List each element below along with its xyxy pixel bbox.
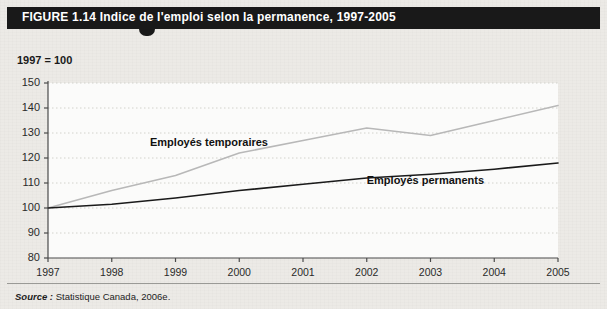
series-annotation-temporaires: Employés temporaires (150, 136, 268, 148)
y-axis-tick-label: 110 (10, 176, 40, 188)
y-axis-tick-label: 90 (10, 226, 40, 238)
y-axis-tick-label: 140 (10, 101, 40, 113)
source-note: Source : Statistique Canada, 2006e. (15, 291, 170, 302)
x-axis-tick-label: 2004 (469, 266, 519, 278)
chart-plot-area (0, 0, 607, 309)
y-axis-tick-label: 150 (10, 76, 40, 88)
source-divider (7, 283, 600, 284)
x-axis-tick-label: 2001 (278, 266, 328, 278)
series-line-temporaires (48, 106, 558, 209)
figure-container: FIGURE 1.14 Indice de l'emploi selon la … (0, 0, 607, 309)
chart-svg (0, 0, 607, 309)
series-annotation-permanents: Employés permanents (367, 174, 484, 186)
x-axis-tick-label: 2003 (406, 266, 456, 278)
series-line-permanents (48, 163, 558, 208)
y-axis-tick-label: 80 (10, 251, 40, 263)
x-axis-tick-label: 1999 (151, 266, 201, 278)
x-axis-tick-label: 1998 (87, 266, 137, 278)
x-axis-tick-label: 2000 (214, 266, 264, 278)
x-axis-tick-label: 2005 (533, 266, 583, 278)
y-axis-tick-label: 100 (10, 201, 40, 213)
y-axis-tick-label: 130 (10, 126, 40, 138)
source-text: Statistique Canada, 2006e. (56, 291, 171, 302)
x-axis-tick-label: 1997 (23, 266, 73, 278)
y-axis-tick-label: 120 (10, 151, 40, 163)
x-axis-tick-label: 2002 (342, 266, 392, 278)
source-prefix: Source : (15, 291, 53, 302)
